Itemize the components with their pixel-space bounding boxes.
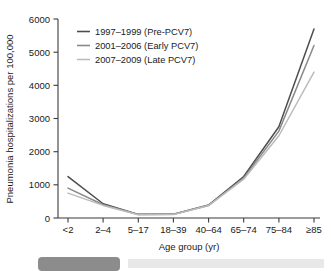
x-tick-label-2: 5–17 xyxy=(128,224,149,235)
y-tick-label-4000: 4000 xyxy=(29,80,50,91)
y-tick-label-5000: 5000 xyxy=(29,47,50,58)
line-chart-svg: Pneumonia hospitalizations per 100,000 6… xyxy=(0,0,331,256)
y-tick-label-0: 0 xyxy=(45,213,50,224)
caption-text-placeholder xyxy=(128,259,324,268)
y-tick-label-1000: 1000 xyxy=(29,179,50,190)
y-tick-label-6000: 6000 xyxy=(29,14,50,25)
series-line-late-pcv7 xyxy=(68,72,314,215)
x-tick-label-0: <2 xyxy=(63,224,74,235)
legend-label-pre-pcv7: 1997–1999 (Pre-PCV7) xyxy=(95,27,192,37)
y-tick-label-2000: 2000 xyxy=(29,146,50,157)
x-tick-label-1: 2–4 xyxy=(95,224,111,235)
chart-legend: 1997–1999 (Pre-PCV7) 2001–2006 (Early PC… xyxy=(77,27,198,65)
legend-label-late-pcv7: 2007–2009 (Late PCV7) xyxy=(95,55,195,65)
x-tick-label-6: 75–84 xyxy=(266,224,292,235)
x-tick-label-4: 40–64 xyxy=(195,224,221,235)
x-axis-title: Age group (yr) xyxy=(159,241,220,252)
x-tick-label-5: 65–74 xyxy=(230,224,256,235)
x-tick-label-7: ≥85 xyxy=(306,224,322,235)
legend-label-early-pcv7: 2001–2006 (Early PCV7) xyxy=(95,41,198,51)
y-axis-title: Pneumonia hospitalizations per 100,000 xyxy=(4,34,15,203)
x-tick-label-3: 18–39 xyxy=(160,224,186,235)
caption-bar xyxy=(38,257,120,271)
y-tick-label-3000: 3000 xyxy=(29,113,50,124)
